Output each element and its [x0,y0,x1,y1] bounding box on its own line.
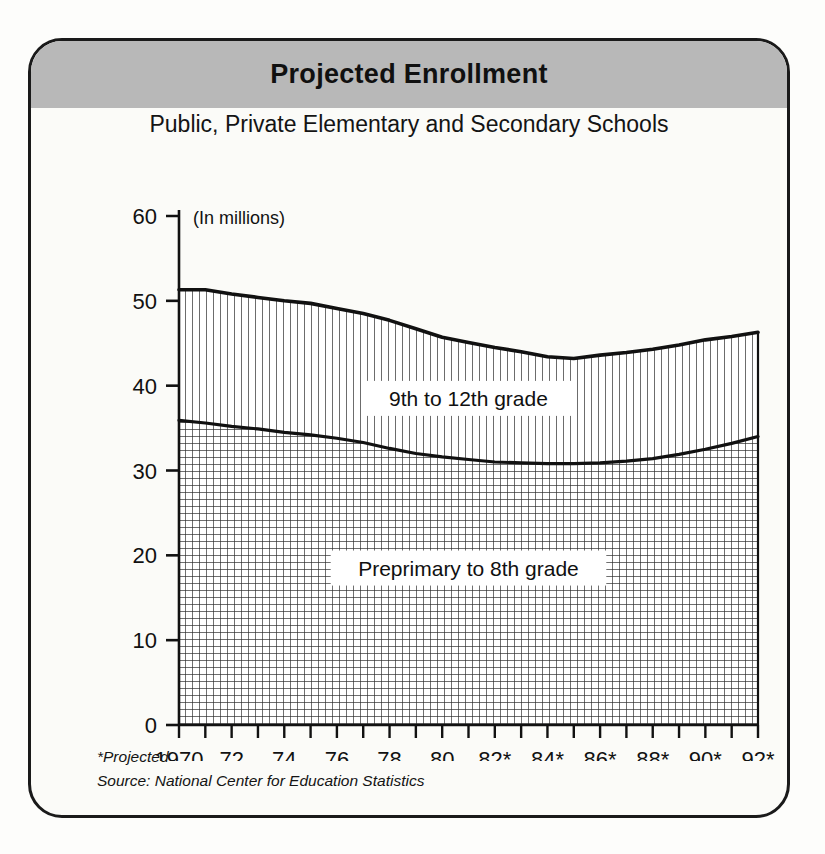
annotation-9th-to-12th-grade: 9th to 12th grade [389,387,548,410]
x-tick-label: 80 [430,747,454,761]
x-tick-label: 86* [584,747,617,761]
x-tick-label: 90* [689,747,722,761]
chart-card: Projected Enrollment Public, Private Ele… [28,38,790,818]
y-tick-label: 30 [133,459,157,484]
x-tick-label: 84* [531,747,564,761]
y-tick-label: 60 [133,204,157,229]
x-tick-label: 92* [741,747,774,761]
y-tick-label: 20 [133,543,157,568]
y-tick-label: 10 [133,628,157,653]
enrollment-area-chart: 0102030405060 1970727476788082*84*86*88*… [31,149,790,761]
chart-series-fills [179,290,758,725]
axis-units-label: (In millions) [193,208,285,228]
x-tick-label: 88* [636,747,669,761]
page-title: Projected Enrollment [270,59,548,90]
footnote-block: *Projected Source: National Center for E… [97,745,424,793]
card-header-band: Projected Enrollment [31,41,787,108]
chart-plot-region: 0102030405060 1970727476788082*84*86*88*… [31,149,790,761]
page-canvas: Projected Enrollment Public, Private Ele… [0,0,825,854]
units-label: (In millions) [193,208,285,228]
annotation-preprimary-to-8th-grade: Preprimary to 8th grade [358,557,579,580]
y-axis-tick-labels: 0102030405060 [133,204,157,738]
y-tick-label: 40 [133,374,157,399]
x-tick-label: 82* [478,747,511,761]
footnote-projected: *Projected [97,745,424,769]
y-tick-label: 50 [133,289,157,314]
footnote-source: Source: National Center for Education St… [97,769,424,793]
card-subtitle: Public, Private Elementary and Secondary… [31,111,787,138]
y-tick-label: 0 [145,713,157,738]
